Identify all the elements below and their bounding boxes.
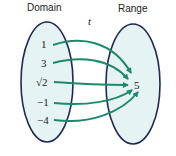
domain-value: √2: [36, 76, 48, 88]
domain-value: −4: [37, 114, 49, 126]
domain-value: 3: [41, 57, 47, 69]
domain-label: Domain: [27, 2, 61, 13]
range-label: Range: [118, 3, 147, 14]
domain-value: −1: [37, 96, 49, 108]
domain-value: 1: [41, 38, 47, 50]
range-value: 5: [134, 79, 140, 91]
function-name: t: [88, 15, 91, 27]
